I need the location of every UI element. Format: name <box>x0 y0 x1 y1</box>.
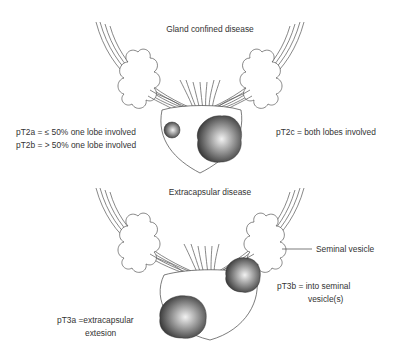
panel-title-gland-confined: Gland confined disease <box>160 24 260 34</box>
label-seminal-vesicle: Seminal vesicle <box>316 244 374 254</box>
label-pt3b-line1: pT3b = into seminal <box>277 281 350 291</box>
label-pt3a-line1: pT3a =extracapsular <box>57 315 134 325</box>
tumor-seminal-invasion <box>226 258 261 293</box>
label-pt3b-line2: vesicle(s) <box>308 294 343 304</box>
tumor-small <box>164 122 180 138</box>
panel-gland-confined <box>96 22 304 173</box>
tumor-extracapsular <box>160 296 207 339</box>
label-pt2c: pT2c = both lobes involved <box>276 127 376 137</box>
panel-title-extracapsular: Extracapsular disease <box>158 187 262 197</box>
label-pt2b: pT2b = > 50% one lobe involved <box>16 140 136 150</box>
tumor-large <box>197 116 241 162</box>
label-pt3a-line2: extesion <box>85 328 116 338</box>
label-pt2a: pT2a = ≤ 50% one lobe involved <box>16 127 136 137</box>
